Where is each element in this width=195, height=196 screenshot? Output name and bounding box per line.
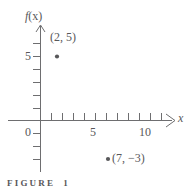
point-label-7-neg3: (7, −3) — [112, 152, 145, 164]
x-tick-label-10: 10 — [139, 126, 151, 138]
y-axis-label-argument: (x) — [28, 9, 42, 23]
x-tick-label-5: 5 — [90, 126, 96, 138]
y-axis-label: f(x) — [25, 10, 42, 22]
figure-container: f(x) x 5 0 5 10 (2, 5) (7, −3) FIGURE1 — [0, 0, 195, 196]
plot-svg — [0, 0, 195, 175]
y-axis-ticks — [33, 44, 41, 160]
data-point-marker-1 — [55, 54, 59, 58]
data-point-marker-2 — [106, 157, 110, 161]
coordinate-plot: f(x) x 5 0 5 10 (2, 5) (7, −3) — [0, 0, 195, 175]
x-tick-label-0: 0 — [25, 126, 31, 138]
x-axis-ticks — [52, 113, 162, 121]
data-points — [55, 54, 110, 161]
figure-caption-number: 1 — [63, 178, 70, 188]
figure-caption-word: FIGURE — [7, 178, 55, 188]
point-label-2-5: (2, 5) — [50, 31, 76, 43]
y-tick-label-5: 5 — [25, 50, 31, 62]
figure-caption: FIGURE1 — [7, 178, 70, 188]
x-axis-label: x — [178, 112, 183, 124]
